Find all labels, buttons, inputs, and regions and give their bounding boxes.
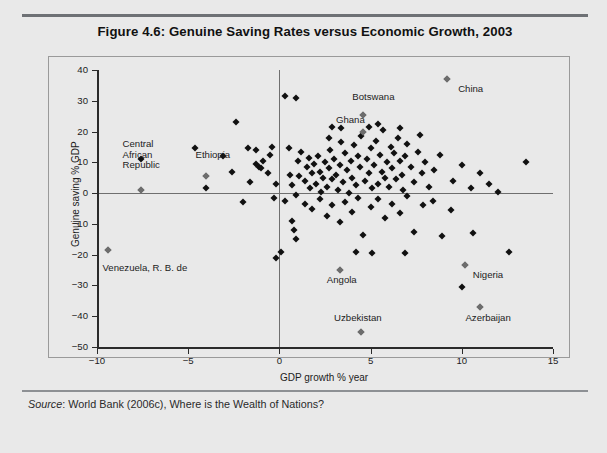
bottom-divider <box>22 390 588 392</box>
x-tick <box>371 349 372 354</box>
point-label: Botswana <box>352 92 394 103</box>
y-tick-label: −30 <box>55 279 88 290</box>
point-label: Angola <box>327 275 357 286</box>
page-title: Figure 4.6: Genuine Saving Rates versus … <box>22 24 588 39</box>
y-tick-label: −40 <box>55 310 88 321</box>
y-tick-label: 40 <box>55 64 88 75</box>
top-divider <box>22 14 588 17</box>
y-tick <box>92 193 97 194</box>
point-label: Central African Republic <box>123 139 160 171</box>
x-tick <box>553 349 554 354</box>
point-label: Venezuela, R. B. de <box>102 263 187 274</box>
y-axis-label: Genuine saving % GDP <box>70 141 81 247</box>
x-tick-label: 5 <box>357 355 385 366</box>
x-axis <box>97 347 553 349</box>
point-label: Ethiopia <box>195 150 230 161</box>
zero-line-horizontal <box>97 193 553 194</box>
y-tick <box>92 70 97 71</box>
x-tick-label: 15 <box>539 355 567 366</box>
y-tick-label: 20 <box>55 126 88 137</box>
x-tick <box>97 349 98 354</box>
source-label: Source <box>28 398 62 410</box>
y-tick <box>92 132 97 133</box>
y-tick <box>92 347 97 348</box>
point-label: Ghana <box>336 115 365 126</box>
point-label: Nigeria <box>473 270 503 281</box>
zero-line-vertical <box>279 70 280 347</box>
x-tick-label: −10 <box>83 355 111 366</box>
figure-page: Figure 4.6: Genuine Saving Rates versus … <box>0 0 607 453</box>
y-tick <box>92 316 97 317</box>
y-tick <box>92 285 97 286</box>
y-tick <box>92 255 97 256</box>
x-axis-label: GDP growth % year <box>280 372 368 383</box>
point-label: China <box>458 84 483 95</box>
source-note: Source: World Bank (2006c), Where is the… <box>28 398 324 410</box>
x-tick-label: 0 <box>265 355 293 366</box>
y-axis <box>97 70 99 347</box>
point-label: Uzbekistan <box>334 313 381 324</box>
x-tick <box>279 349 280 354</box>
y-tick <box>92 162 97 163</box>
y-tick <box>92 101 97 102</box>
x-tick-label: −5 <box>174 355 202 366</box>
point-label: Azerbaijan <box>465 313 510 324</box>
y-tick-label: −20 <box>55 249 88 260</box>
x-tick <box>188 349 189 354</box>
source-text: : World Bank (2006c), Where is the Wealt… <box>62 398 324 410</box>
y-tick-label: 30 <box>55 95 88 106</box>
y-tick-label: −50 <box>55 341 88 352</box>
y-tick <box>92 224 97 225</box>
x-tick-label: 10 <box>448 355 476 366</box>
x-tick <box>462 349 463 354</box>
